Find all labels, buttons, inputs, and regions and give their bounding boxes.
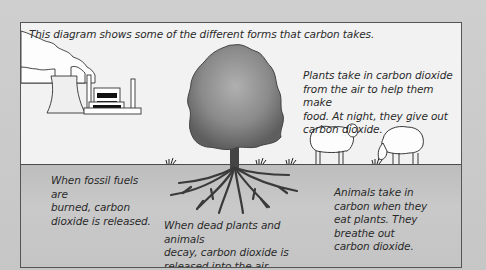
animals-caption-line: carbon dioxide. (334, 240, 434, 254)
fossil-caption-line: burned, carbon (51, 201, 156, 215)
tree-icon (171, 45, 297, 213)
animals-caption-line: carbon when they (334, 200, 434, 214)
grass-tufts-icon (166, 158, 382, 164)
plants-caption-line: Plants take in carbon dioxide (303, 69, 462, 83)
plants-caption-line: from the air to help them make (303, 83, 462, 110)
plants-caption-line: carbon dioxide. (303, 123, 462, 137)
decay-caption-line: When dead plants and animals (164, 219, 314, 246)
animals-caption-line: Animals take in (334, 186, 434, 200)
fossil-fuels-caption: When fossil fuels are burned, carbon dio… (51, 174, 156, 228)
plants-caption-line: food. At night, they give out (303, 110, 462, 124)
animals-caption-line: breathe out (334, 227, 434, 241)
decay-caption-line: decay, carbon dioxide is (164, 246, 314, 260)
animals-caption: Animals take in carbon when they eat pla… (334, 186, 434, 254)
intro-caption: This diagram shows some of the different… (29, 28, 374, 42)
animals-caption-line: eat plants. They (334, 213, 434, 227)
fossil-caption-line: When fossil fuels are (51, 174, 156, 201)
diagram-frame: This diagram shows some of the different… (20, 22, 462, 268)
plants-caption: Plants take in carbon dioxide from the a… (303, 69, 462, 137)
decay-caption-line: released into the air. (164, 260, 314, 269)
power-station-icon (21, 31, 141, 114)
fossil-caption-line: dioxide is released. (51, 215, 156, 229)
decay-caption: When dead plants and animals decay, carb… (164, 219, 314, 268)
